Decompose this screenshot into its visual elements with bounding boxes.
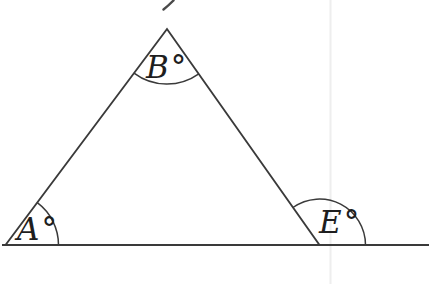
angle-e-label: E° bbox=[318, 204, 361, 240]
angle-b-label: B° bbox=[145, 49, 188, 85]
worksheet-page: A° B° E° bbox=[0, 0, 429, 284]
angle-a-label: A° bbox=[14, 211, 59, 247]
triangle-figure: A° B° E° bbox=[0, 0, 429, 284]
stray-ink-mark bbox=[164, 1, 174, 10]
